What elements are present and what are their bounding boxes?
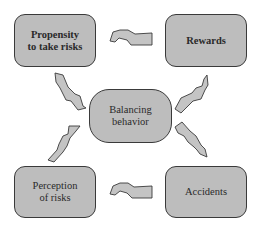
node-rewards: Rewards xyxy=(165,14,247,67)
arrow-propensity-to-balancing xyxy=(55,73,86,110)
node-accidents: Accidents xyxy=(165,166,247,218)
arrow-accidents-to-perception xyxy=(110,183,152,198)
node-label: Accidents xyxy=(185,186,227,198)
node-label-line2: behavior xyxy=(109,116,152,128)
node-label-line1: Perception xyxy=(33,180,78,192)
node-balancing-behavior: Balancing behavior xyxy=(89,89,172,143)
node-label: Rewards xyxy=(186,35,226,47)
node-label-line1: Propensity xyxy=(28,29,83,41)
node-label-line1: Balancing xyxy=(109,104,152,116)
node-perception-of-risks: Perception of risks xyxy=(14,166,96,218)
arrow-balancing-to-accidents xyxy=(175,122,207,157)
arrow-perception-to-balancing xyxy=(48,126,80,162)
node-propensity-to-take-risks: Propensity to take risks xyxy=(14,14,96,67)
node-label-line2: to take risks xyxy=(28,41,83,53)
arrow-rewards-to-propensity xyxy=(110,30,152,45)
node-label-line2: of risks xyxy=(33,192,78,204)
arrow-balancing-to-rewards xyxy=(175,75,208,113)
